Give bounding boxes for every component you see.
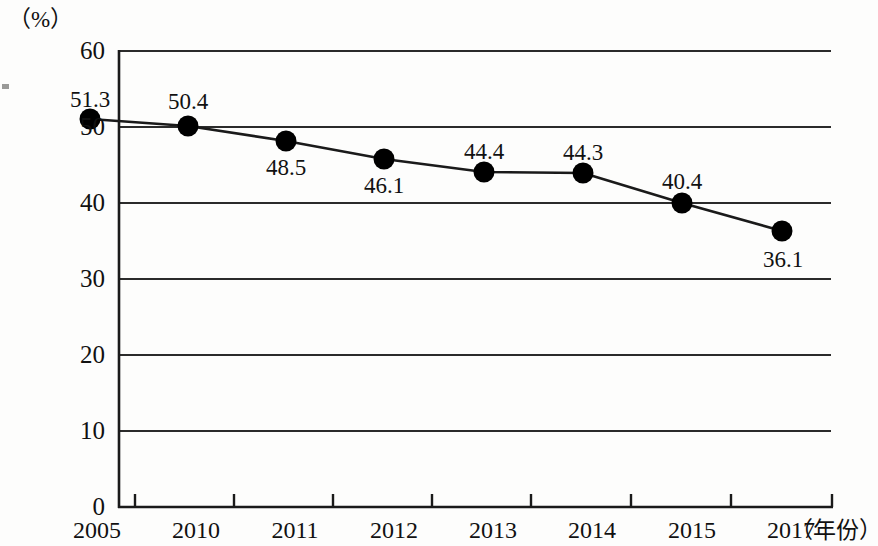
line-chart-plot <box>0 0 878 546</box>
value-label-2013: 44.4 <box>439 140 529 163</box>
y-tick-label-60: 60 <box>59 38 105 63</box>
value-label-2010: 50.4 <box>143 90 233 113</box>
x-tick-label-2011: 2011 <box>240 518 350 542</box>
value-label-2017: 36.1 <box>738 248 828 271</box>
x-axis-name-label: （年份） <box>790 519 878 542</box>
x-tick-label-2010: 2010 <box>141 518 251 542</box>
y-tick-label-0: 0 <box>59 494 105 519</box>
value-label-2014: 44.3 <box>538 141 628 164</box>
y-tick-label-40: 40 <box>59 190 105 215</box>
data-point-2015 <box>672 193 693 214</box>
y-tick-label-50: 50 <box>59 114 105 139</box>
x-axis-ticks <box>135 494 832 507</box>
value-label-2005: 51.3 <box>45 88 135 111</box>
data-point-2014 <box>573 163 594 184</box>
x-tick-label-2012: 2012 <box>339 518 449 542</box>
data-point-2017 <box>772 221 793 242</box>
value-label-2011: 48.5 <box>241 156 331 179</box>
y-tick-label-10: 10 <box>59 418 105 443</box>
y-tick-label-30: 30 <box>59 266 105 291</box>
data-point-2012 <box>374 149 395 170</box>
value-label-2012: 46.1 <box>339 174 429 197</box>
x-tick-label-2005: 2005 <box>42 518 152 542</box>
y-axis-unit-label: （%） <box>8 8 73 31</box>
value-label-2015: 40.4 <box>637 170 727 193</box>
x-tick-label-2015: 2015 <box>637 518 747 542</box>
y-tick-label-20: 20 <box>59 342 105 367</box>
data-point-2013 <box>474 162 495 183</box>
x-tick-label-2014: 2014 <box>537 518 647 542</box>
x-tick-label-2013: 2013 <box>438 518 548 542</box>
data-point-2011 <box>276 131 297 152</box>
chart-container: （%） 60 50 40 30 20 10 0 2005 2010 2011 2… <box>0 0 878 546</box>
data-point-2010 <box>178 116 199 137</box>
